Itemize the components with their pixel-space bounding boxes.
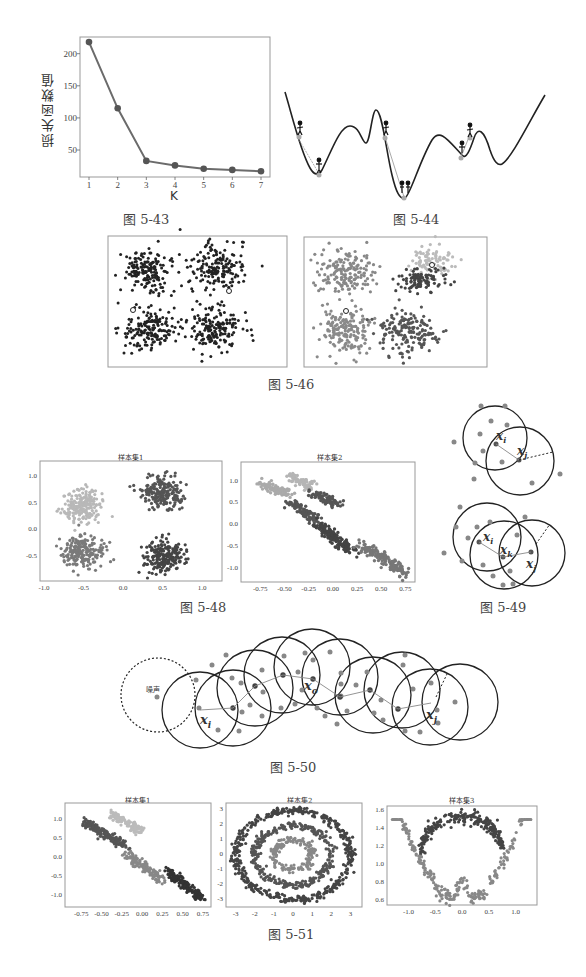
y-tick-label: 1.6 [375,806,384,814]
figure-caption: 图 5-51 [268,924,314,943]
dbscan-results-plots [0,0,586,977]
y-tick-label: 3 [220,805,224,813]
x-tick-label: 0 [285,910,301,918]
y-tick-label: 1.2 [375,842,384,850]
y-tick-label: 1.0 [53,815,62,823]
x-tick-label: -0.75 [73,910,89,918]
y-tick-label: -3 [217,895,223,903]
x-tick-label: -3 [228,910,244,918]
x-tick-label: 0.25 [154,910,170,918]
y-tick-label: -2 [217,880,223,888]
y-tick-label: 2 [220,820,224,828]
x-tick-label: -0.5 [427,908,443,916]
x-tick-label: 0.00 [134,910,150,918]
y-tick-label: 1 [220,835,224,843]
x-tick-label: 1.0 [508,908,524,916]
x-tick-label: -2 [247,910,263,918]
y-tick-label: 1.0 [375,860,384,868]
y-tick-label: 1.4 [375,824,384,832]
y-tick-label: 0.0 [53,853,62,861]
x-tick-label: 0.75 [195,910,211,918]
y-tick-label: -1.0 [51,891,62,899]
x-tick-label: 0.5 [481,908,497,916]
y-tick-label: 0.6 [375,896,384,904]
y-tick-label: -0.5 [51,872,62,880]
x-tick-label: 0.50 [175,910,191,918]
x-tick-label: -1 [266,910,282,918]
x-tick-label: 1 [304,910,320,918]
x-tick-label: -1.0 [400,908,416,916]
x-tick-label: -0.50 [94,910,110,918]
y-tick-label: 0 [220,850,224,858]
y-tick-label: -1 [217,865,223,873]
y-tick-label: 0.5 [53,834,62,842]
x-tick-label: 0.0 [454,908,470,916]
y-tick-label: 0.8 [375,878,384,886]
x-tick-label: 2 [323,910,339,918]
x-tick-label: -0.25 [114,910,130,918]
x-tick-label: 3 [343,910,359,918]
